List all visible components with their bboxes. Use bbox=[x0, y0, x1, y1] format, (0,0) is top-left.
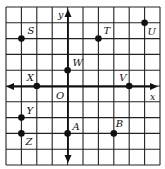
coordinate-grid: x y O STUWXVYZAB bbox=[0, 0, 165, 169]
point-x bbox=[34, 83, 41, 90]
point-z bbox=[18, 130, 25, 137]
point-t bbox=[95, 35, 102, 42]
point-label-x: X bbox=[26, 72, 35, 83]
point-label-z: Z bbox=[24, 136, 33, 147]
point-y bbox=[18, 114, 25, 121]
point-label-b: B bbox=[115, 118, 123, 129]
point-label-a: A bbox=[72, 121, 80, 132]
origin-label: O bbox=[56, 90, 64, 101]
y-axis-label: y bbox=[57, 9, 64, 20]
point-label-s: S bbox=[27, 25, 34, 36]
point-label-v: V bbox=[119, 72, 128, 83]
x-axis-right-arrow-icon bbox=[150, 83, 158, 90]
point-w bbox=[64, 67, 71, 74]
point-s bbox=[18, 35, 25, 42]
point-label-u: U bbox=[148, 26, 157, 37]
point-label-w: W bbox=[73, 57, 84, 68]
point-a bbox=[64, 130, 71, 137]
y-axis-down-arrow-icon bbox=[65, 155, 72, 163]
point-label-y: Y bbox=[26, 105, 34, 116]
point-b bbox=[111, 130, 118, 137]
y-axis-up-arrow-icon bbox=[65, 9, 72, 17]
point-label-t: T bbox=[103, 25, 111, 36]
point-v bbox=[126, 83, 133, 90]
x-axis-label: x bbox=[150, 91, 156, 102]
x-axis-left-arrow-icon bbox=[6, 83, 14, 90]
